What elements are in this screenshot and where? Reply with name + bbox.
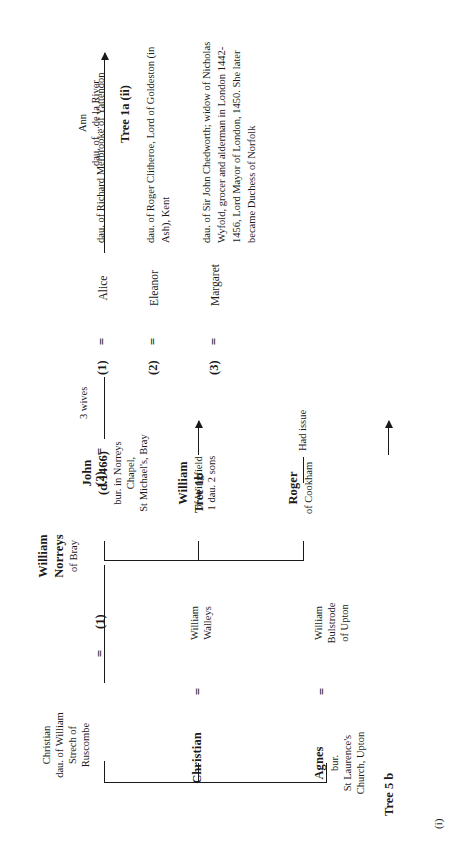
person-john-death: (d.1466): [96, 403, 112, 543]
person-christian-strech-line-2: dau. of William: [53, 675, 66, 815]
person-william-bulstrode-line-3: of Upton: [338, 573, 351, 673]
person-john-line-1: bur. in Norreys: [111, 403, 124, 543]
person-john-line-3: St Michael's, Bray: [137, 403, 150, 543]
connector-left-sibling-bus: [104, 782, 326, 783]
wife-1-number: (1): [96, 360, 109, 375]
person-ann-line-1: Ann: [76, 23, 89, 223]
person-william-walleys: William Walleys: [188, 573, 214, 673]
person-agnes-line-3: Church, Upton: [354, 703, 367, 823]
person-agnes-name: Agnes: [312, 703, 328, 823]
person-christian-strech: Christian dau. of William Strech of Rusc…: [40, 675, 92, 815]
connector-william-wingfield-drop: [198, 541, 199, 561]
person-william-bulstrode: William Bulstrode of Upton: [312, 573, 351, 673]
person-john-line-2: Chapel,: [124, 403, 137, 543]
figure-caption: (i): [432, 819, 444, 829]
person-william-walleys-line-1: William: [188, 573, 201, 673]
marriage-symbol-agnes: =: [316, 688, 329, 695]
marriage-symbol-christian: =: [192, 688, 205, 695]
person-william-bulstrode-line-1: William: [312, 573, 325, 673]
wife-1-eq: =: [96, 338, 109, 345]
person-william-norreys-sub: of Bray: [67, 511, 80, 601]
connector-norreys-second-marriage: [104, 682, 105, 683]
wife-2-description: dau. of Roger Clitheroe, Lord of Goldest…: [144, 11, 174, 243]
tree-ref-5b[interactable]: Tree 5 b: [382, 773, 397, 816]
rotated-chart-wrapper: Agnes bur. St Laurence's Church, Upton =…: [0, 0, 457, 843]
arrow-to-tree-5b: [388, 421, 389, 455]
wife-2-number: (2): [147, 360, 160, 375]
wife-1-name: Alice: [96, 255, 111, 321]
wife-2-name: Eleanor: [147, 249, 162, 327]
tree-ref-1b[interactable]: Tree 1b: [192, 473, 207, 513]
person-william-norreys: William Norreys of Bray: [36, 511, 80, 601]
family-tree-canvas: Agnes bur. St Laurence's Church, Upton =…: [0, 0, 457, 843]
person-christian-walleys-name: Christian: [190, 703, 206, 813]
wife-3-number: (3): [208, 360, 221, 375]
connector-children-bus: [104, 560, 303, 561]
roger-had-issue-note: Had issue: [297, 410, 308, 451]
wife-3-description: dau. of Sir John Chedworth; widow of Nic…: [200, 5, 260, 243]
wife-3-eq: =: [208, 338, 221, 345]
person-christian-strech-line-4: Ruscombe: [79, 675, 92, 815]
person-agnes-line-2: St Laurence's: [341, 703, 354, 823]
connector-parent-stem: [104, 761, 105, 783]
person-william-norreys-name-1: William: [36, 511, 52, 601]
connector-john-drop: [104, 541, 105, 561]
marriage-symbol-first: =: [94, 650, 107, 657]
person-christian-strech-line-3: Strech of: [66, 675, 79, 815]
marriage-number-first: (1): [94, 614, 107, 629]
person-christian-walleys: Christian: [190, 703, 206, 813]
person-william-bulstrode-line-2: Bulstrode: [325, 573, 338, 673]
person-agnes: Agnes bur. St Laurence's Church, Upton: [312, 703, 367, 823]
person-john: John (d.1466) bur. in Norreys Chapel, St…: [80, 403, 150, 543]
person-william-walleys-line-2: Walleys: [201, 573, 214, 673]
person-agnes-line-1: bur.: [328, 703, 341, 823]
person-christian-strech-line-1: Christian: [40, 675, 53, 815]
wife-3-name: Margaret: [208, 239, 223, 331]
connector-roger-drop: [303, 541, 304, 561]
john-wives-note: 3 wives: [78, 387, 89, 419]
person-john-name: John: [80, 403, 96, 543]
wife-2-eq: =: [147, 338, 160, 345]
person-william-wingfield-name: William: [176, 423, 192, 543]
wife-1-description: dau. of Richard Merbrooke of Yattendon: [94, 11, 109, 243]
tree-ref-1a-ii[interactable]: Tree 1a (ii): [118, 85, 133, 143]
person-william-norreys-name-2: Norreys: [52, 511, 68, 601]
